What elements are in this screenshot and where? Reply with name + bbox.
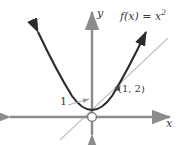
tangent-line [60,38,168,140]
point-label: (1, 2) [118,84,145,94]
math-figure: f(x) = x2 (1, 2) 1 x y [0,0,189,145]
origin-marker [88,113,97,122]
function-label: f(x) = x2 [120,9,166,22]
vertex-annotation-label: 1 [60,96,67,107]
y-axis-label: y [97,8,103,19]
x-axis-label: x [166,118,172,129]
function-label-exponent: 2 [161,8,166,17]
function-label-base: f(x) = x [120,10,161,23]
